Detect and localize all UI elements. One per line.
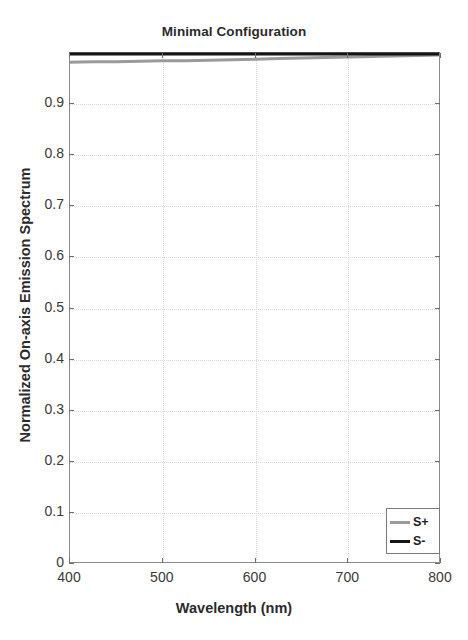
x-axis-label: Wavelength (nm) [0,600,468,616]
legend-line-icon-s-plus [390,521,410,524]
y-tick-mark [435,461,440,462]
legend-line-icon-s-minus [390,540,410,543]
x-tick-mark [162,53,163,58]
x-tick-mark [440,558,441,563]
y-tick-mark [69,256,74,257]
y-tick-mark [69,154,74,155]
y-tick-mark [69,410,74,411]
y-tick-mark [69,461,74,462]
y-tick-mark [69,563,74,564]
x-tick-label: 500 [137,569,187,585]
x-tick-mark [255,558,256,563]
x-tick-mark [347,558,348,563]
x-tick-label: 400 [44,569,94,585]
legend-entry-s-plus: S+ [390,513,436,532]
y-tick-mark [69,512,74,513]
legend-label-s-plus: S+ [413,516,429,529]
legend-label-s-minus: S- [413,535,426,548]
x-tick-mark [347,53,348,58]
y-tick-mark [69,205,74,206]
y-tick-mark [435,103,440,104]
y-tick-mark [435,308,440,309]
y-tick-mark [435,359,440,360]
x-tick-label: 600 [230,569,280,585]
y-tick-mark [435,154,440,155]
x-tick-mark [69,558,70,563]
x-tick-label: 800 [415,569,465,585]
x-tick-mark [440,53,441,58]
x-tick-label: 700 [322,569,372,585]
x-tick-mark [255,53,256,58]
chart-figure: Minimal Configuration 00.10.20.30.40.50.… [0,0,468,640]
y-tick-mark [435,563,440,564]
chart-legend[interactable]: S+ S- [386,508,440,554]
y-axis-label-wrapper: Normalized On-axis Emission Spectrum [0,297,285,319]
y-tick-mark [69,103,74,104]
y-tick-mark [435,205,440,206]
chart-title: Minimal Configuration [0,24,468,39]
legend-entry-s-minus: S- [390,532,436,551]
x-tick-mark [162,558,163,563]
y-tick-mark [435,256,440,257]
y-tick-mark [69,359,74,360]
y-axis-label: Normalized On-axis Emission Spectrum [17,45,33,565]
y-tick-mark [435,410,440,411]
x-tick-mark [69,53,70,58]
